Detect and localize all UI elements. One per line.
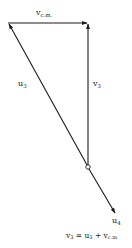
vector-u3	[9, 24, 87, 165]
label-u3: u3	[18, 79, 27, 89]
label-u4: u4	[112, 216, 121, 226]
vector-diagram: vc.m. u3 v3 u4 v3 = u3 + vc.m.	[0, 0, 132, 248]
label-vcm: vc.m.	[35, 8, 53, 18]
origin-point	[86, 165, 90, 169]
label-v3: v3	[92, 79, 102, 89]
vector-u4	[89, 169, 115, 213]
equation: v3 = u3 + vc.m.	[65, 231, 119, 240]
